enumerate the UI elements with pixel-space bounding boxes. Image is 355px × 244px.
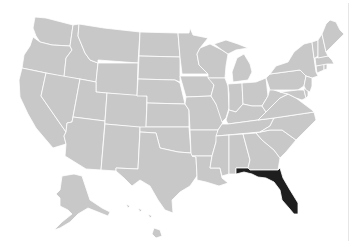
state-ks[interactable]: Kansas: [146, 103, 189, 127]
state-hi[interactable]: Hawaii: [126, 204, 162, 238]
state-az[interactable]: Arizona: [64, 117, 105, 170]
state-me[interactable]: Maine: [322, 20, 344, 52]
state-nm[interactable]: New Mexico: [101, 124, 140, 171]
state-co[interactable]: Colorado: [105, 93, 147, 128]
us-states-map: Washington Oregon California Idaho Nevad…: [0, 0, 355, 244]
state-sd[interactable]: South Dakota: [138, 56, 180, 82]
state-ak[interactable]: Alaska: [54, 174, 110, 230]
frame-border-line: [348, 3, 349, 241]
state-ri[interactable]: Rhode Island: [324, 64, 327, 70]
state-nd[interactable]: North Dakota: [139, 32, 180, 57]
state-wy[interactable]: Wyoming: [96, 63, 138, 96]
state-fl[interactable]: Florida: [236, 168, 298, 214]
